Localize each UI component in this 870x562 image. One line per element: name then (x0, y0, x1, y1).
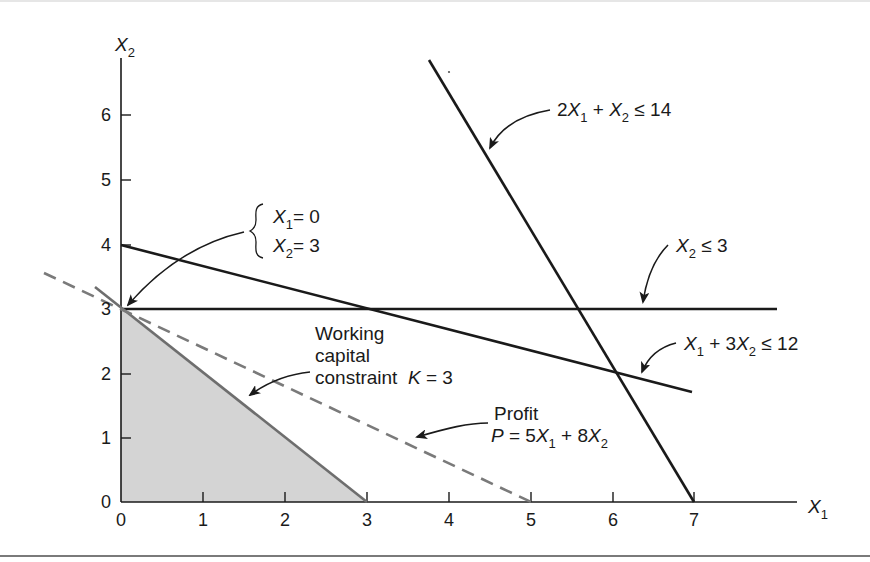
label-optimum-x1: X1= 0 (273, 206, 320, 230)
label-profit-equation: P = 5X1 + 8X2 (491, 425, 608, 449)
plot-area (0, 0, 870, 562)
label-profit-title: Profit (494, 403, 538, 425)
x-tick-3: 3 (362, 510, 372, 530)
y-tick-6: 6 (101, 105, 111, 125)
arrow-x2-le-3 (643, 245, 668, 302)
label-x1-plus-3x2-le-12: X1 + 3X2 ≤ 12 (684, 333, 798, 357)
arrow-x1-plus-3x2 (642, 343, 676, 372)
stray-mark (448, 71, 450, 73)
brace (250, 204, 263, 258)
y-tick-3: 3 (101, 299, 111, 319)
x-tick-0: 0 (116, 510, 126, 530)
x-tick-2: 2 (280, 510, 290, 530)
x-tick-4: 4 (444, 510, 454, 530)
x-tick-6: 6 (608, 510, 618, 530)
arrow-2x1-constraint (490, 110, 550, 148)
arrow-optimum (128, 232, 244, 305)
x-tick-7: 7 (689, 510, 699, 530)
y-tick-2: 2 (101, 364, 111, 384)
label-working-capital-line1: Working (315, 323, 384, 345)
y-tick-1: 1 (101, 428, 111, 448)
y-axis-label: X2 (115, 34, 135, 58)
label-x2-le-3: X2 ≤ 3 (676, 235, 727, 259)
label-2x1-plus-x2-le-14: 2X1 + X2 ≤ 14 (557, 99, 671, 123)
label-working-capital-line3: constraint K = 3 (315, 367, 453, 389)
y-tick-5: 5 (101, 170, 111, 190)
label-optimum-x2: X2= 3 (273, 235, 320, 259)
y-tick-0: 0 (101, 492, 111, 512)
arrow-profit (417, 423, 488, 437)
x-axis-label: X1 (808, 496, 828, 520)
x-tick-5: 5 (526, 510, 536, 530)
label-working-capital-line2: capital (315, 345, 370, 367)
x-tick-1: 1 (198, 510, 208, 530)
y-tick-4: 4 (101, 235, 111, 255)
